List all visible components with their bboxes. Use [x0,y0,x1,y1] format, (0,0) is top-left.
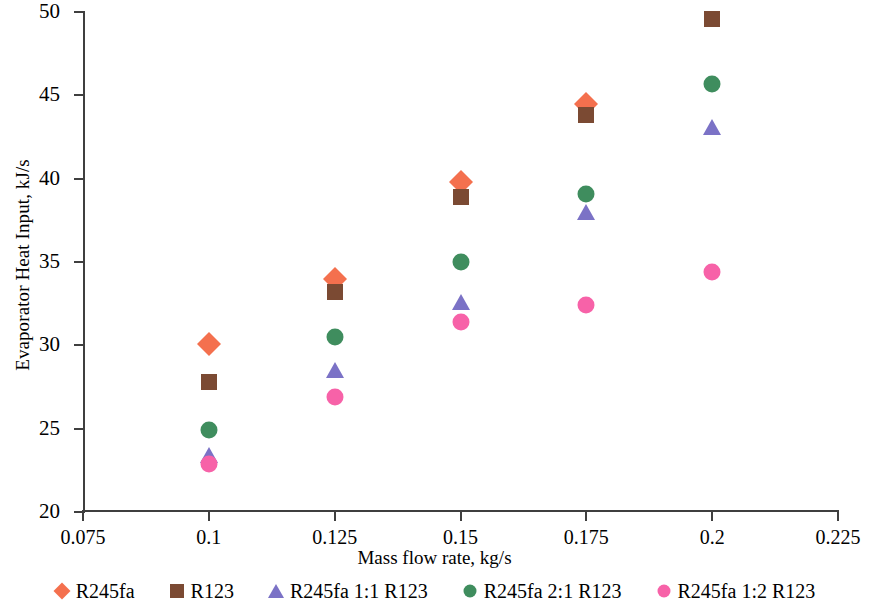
data-point [704,264,721,281]
legend-marker-circle-icon [462,583,478,599]
legend-label: R245fa 2:1 R123 [484,581,622,601]
data-point [197,332,221,356]
data-point [578,297,595,314]
data-point [200,455,217,472]
legend-label: R123 [191,581,234,601]
x-tick-label: 0.1 [196,527,221,547]
data-point [452,254,469,271]
legend-item[interactable]: R245fa 1:1 R123 [268,581,428,601]
x-tick-mark [208,510,210,521]
plot-area: 20253035404550 0.0750.10.1250.150.1750.2… [83,12,838,512]
y-tick-label: 25 [39,418,60,439]
x-tick-mark [334,510,336,521]
data-point [200,422,217,439]
y-tick-label: 20 [39,501,60,522]
legend-marker-diamond-icon [54,583,70,599]
x-axis-title: Mass flow rate, kg/s [0,546,869,570]
y-tick-mark: 25 [74,428,85,430]
data-point [704,11,720,27]
data-point [577,204,595,220]
data-point [452,314,469,331]
data-point [201,374,217,390]
chart-legend: R245faR123R245fa 1:1 R123R245fa 2:1 R123… [0,578,869,603]
legend-item[interactable]: R245fa [54,581,135,601]
data-point [704,75,721,92]
y-tick-mark: 40 [74,178,85,180]
y-tick-label: 35 [39,251,60,272]
data-point [326,329,343,346]
x-tick-label: 0.15 [443,527,478,547]
y-tick-mark: 45 [74,94,85,96]
y-tick-label: 30 [39,334,60,355]
x-tick-label: 0.075 [61,527,106,547]
x-tick-label: 0.175 [564,527,609,547]
legend-item[interactable]: R245fa 1:2 R123 [656,581,816,601]
y-tick-mark: 30 [74,344,85,346]
data-point [578,185,595,202]
legend-marker-square-icon [169,583,185,599]
y-tick-mark: 50 [74,11,85,13]
y-tick-label: 40 [39,168,60,189]
x-tick-mark [460,510,462,521]
legend-label: R245fa [76,581,135,601]
legend-marker-triangle-icon [268,583,284,599]
x-tick-label: 0.225 [816,527,861,547]
x-tick-label: 0.125 [312,527,357,547]
legend-label: R245fa 1:2 R123 [678,581,816,601]
x-tick-mark [82,510,84,521]
data-point [327,284,343,300]
data-point [453,189,469,205]
scatter-chart: Evaporator Heat Input, kJ/s 202530354045… [0,0,869,605]
legend-label: R245fa 1:1 R123 [290,581,428,601]
data-point [326,362,344,378]
x-tick-label: 0.2 [700,527,725,547]
y-axis-title: Evaporator Heat Input, kJ/s [10,100,36,430]
legend-item[interactable]: R245fa 2:1 R123 [462,581,622,601]
y-tick-label: 45 [39,84,60,105]
data-point [578,107,594,123]
x-tick-mark [837,510,839,521]
data-point [452,294,470,310]
y-tick-label: 50 [39,1,60,22]
legend-item[interactable]: R123 [169,581,234,601]
legend-marker-circle-icon [656,583,672,599]
y-tick-mark: 35 [74,261,85,263]
x-tick-mark [585,510,587,521]
x-tick-mark [711,510,713,521]
data-point [703,119,721,135]
data-point [326,389,343,406]
